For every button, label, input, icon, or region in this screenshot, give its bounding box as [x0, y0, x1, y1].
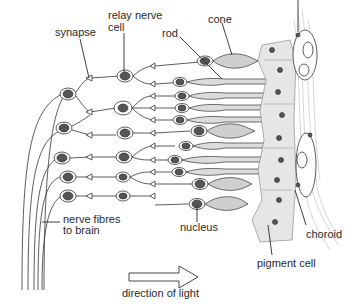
label-rod: rod [162, 27, 178, 39]
photoreceptors [155, 54, 268, 211]
direction-arrow-icon [129, 266, 198, 288]
retina-diagram: synapse relay nerve cell rod cone nerve … [0, 0, 359, 308]
pigment-layer [252, 40, 296, 242]
label-relay-nerve-line1: relay nerve [108, 9, 162, 21]
label-pigment-cell: pigment cell [257, 257, 316, 269]
label-choroid: choroid [306, 228, 342, 240]
label-relay-nerve-line2: cell [108, 21, 125, 33]
diagram-canvas: synapse relay nerve cell rod cone nerve … [0, 0, 359, 308]
ganglion-cells [54, 88, 76, 202]
choroid-layer [293, 10, 340, 250]
label-direction-of-light: direction of light [122, 287, 199, 299]
label-nucleus: nucleus [180, 221, 218, 233]
relay-cells [114, 63, 155, 201]
label-synapse: synapse [55, 26, 96, 38]
label-cone: cone [208, 13, 232, 25]
nerve-fibres [22, 94, 64, 290]
label-nerve-fibres-line2: to brain [63, 224, 100, 236]
synapse-connections [70, 75, 120, 199]
